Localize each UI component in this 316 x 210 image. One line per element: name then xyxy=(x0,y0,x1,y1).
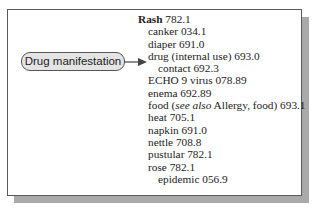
index-entry: drug (internal use) 693.0 xyxy=(138,50,306,62)
index-entry: pustular 782.1 xyxy=(138,148,306,160)
index-subentry: contact 692.3 xyxy=(138,62,306,74)
main-code: 782.1 xyxy=(165,13,190,25)
index-entry: diaper 691.0 xyxy=(138,38,306,50)
index-entry: ECHO 9 virus 078.89 xyxy=(138,74,306,86)
index-entry: heat 705.1 xyxy=(138,111,306,123)
see-also-note: see also xyxy=(175,99,211,111)
index-entry: food (see also Allergy, food) 693.1 xyxy=(138,99,306,111)
entry-post: Allergy, food) 693.1 xyxy=(211,99,305,111)
index-entry: nettle 708.8 xyxy=(138,136,306,148)
drug-manifestation-callout: Drug manifestation xyxy=(21,52,125,71)
entry-pre: food ( xyxy=(148,99,175,111)
index-subentry: epidemic 056.9 xyxy=(138,173,306,185)
index-entry: enema 692.89 xyxy=(138,87,306,99)
index-list: Rash 782.1 canker 034.1 diaper 691.0 dru… xyxy=(138,13,306,185)
index-entry: napkin 691.0 xyxy=(138,124,306,136)
index-entry: rose 782.1 xyxy=(138,161,306,173)
callout-label: Drug manifestation xyxy=(25,55,122,67)
index-entry: canker 034.1 xyxy=(138,25,306,37)
main-term: Rash xyxy=(138,13,163,25)
main-term-entry: Rash 782.1 xyxy=(138,13,306,25)
